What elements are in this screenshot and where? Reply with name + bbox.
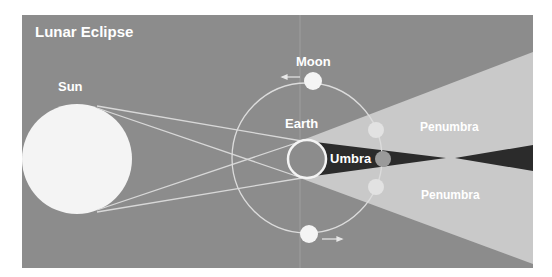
earth-label: Earth [285, 117, 318, 130]
penumbra-lower-label: Penumbra [421, 189, 480, 201]
moon-penumbra-lower [368, 179, 384, 195]
moon-umbra [375, 151, 391, 167]
sun [22, 104, 132, 214]
moon-top [304, 72, 322, 90]
moon-bottom [300, 225, 318, 243]
penumbra-upper-label: Penumbra [420, 121, 479, 133]
earth [288, 140, 326, 178]
moon-penumbra-upper [368, 122, 384, 138]
moon-label: Moon [296, 55, 331, 68]
lunar-eclipse-diagram [0, 0, 552, 277]
umbra-label: Umbra [330, 152, 371, 165]
sun-label: Sun [58, 80, 83, 93]
diagram-title: Lunar Eclipse [35, 24, 133, 39]
